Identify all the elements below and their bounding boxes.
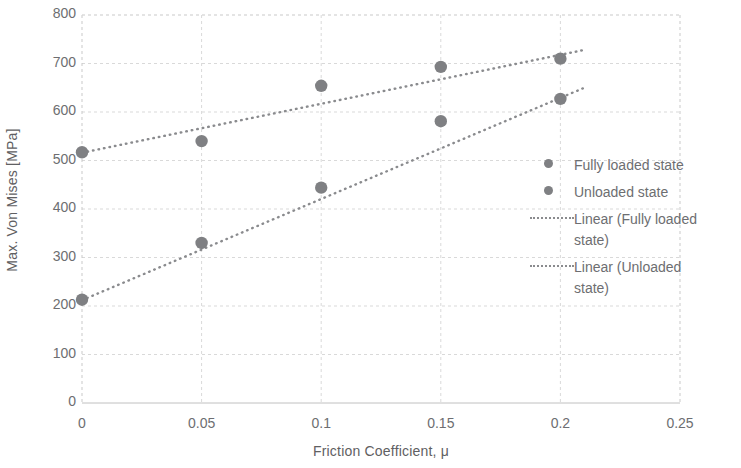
trendline [82,88,584,300]
data-point [435,115,447,127]
data-point [195,135,207,147]
data-point [554,93,566,105]
legend-item[interactable]: Unloaded state [530,182,741,203]
data-point [76,293,88,305]
data-point [315,80,327,92]
legend-item-label: Linear (Unloaded state) [574,257,681,299]
data-point [315,181,327,193]
dotted-line-icon [530,217,574,219]
x-axis-title: Friction Coefficient, μ [82,443,680,459]
legend-item-label: Linear (Fully loaded state) [574,209,697,251]
legend-item-label: Fully loaded state [574,155,684,176]
trendlines [82,50,584,300]
legend-item-label: Unloaded state [574,182,668,203]
chart-legend: Fully loaded stateUnloaded stateLinear (… [530,155,741,305]
legend-circle-marker-icon [530,155,574,172]
chart-container: Max. Von Mises [MPa] 0100200300400500600… [0,0,741,468]
legend-item[interactable]: Linear (Fully loaded state) [530,209,741,251]
trendline [82,50,584,153]
dotted-line-icon [530,265,574,267]
legend-item[interactable]: Fully loaded state [530,155,741,176]
legend-circle-marker-icon [530,182,574,199]
data-point [435,61,447,73]
data-point [195,237,207,249]
legend-dotted-line-marker-icon [530,257,574,274]
legend-dotted-line-marker-icon [530,209,574,226]
data-point [554,52,566,64]
x-axis-title-label: Friction Coefficient, μ [313,443,449,459]
circle-icon [544,159,553,168]
legend-item[interactable]: Linear (Unloaded state) [530,257,741,299]
circle-icon [544,186,553,195]
data-point [76,146,88,158]
